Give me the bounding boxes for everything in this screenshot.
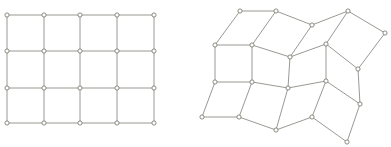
mesh-node: [115, 13, 119, 17]
mesh-node: [115, 49, 119, 53]
mesh-node: [274, 9, 278, 13]
mesh-node: [5, 49, 9, 53]
mesh-edge: [239, 117, 276, 130]
mesh-node: [200, 115, 204, 119]
mesh-edge: [358, 33, 385, 69]
mesh-node: [78, 86, 82, 90]
deformed-grid-edges: [202, 11, 385, 142]
mesh-node: [42, 121, 46, 125]
mesh-node: [5, 13, 9, 17]
mesh-edge: [276, 117, 312, 130]
mesh-figure: Regular grid mesh and its deformed count…: [0, 0, 391, 147]
mesh-edge: [239, 82, 252, 117]
mesh-edge: [312, 11, 348, 25]
mesh-edge: [326, 44, 358, 69]
mesh-edge: [276, 11, 312, 25]
mesh-node: [356, 67, 360, 71]
mesh-node: [358, 102, 362, 106]
mesh-edge: [276, 88, 288, 130]
mesh-node: [250, 80, 254, 84]
mesh-edge: [312, 117, 347, 142]
mesh-edge: [288, 81, 326, 88]
mesh-node: [310, 23, 314, 27]
mesh-edge: [202, 82, 215, 117]
mesh-node: [274, 128, 278, 132]
mesh-node: [345, 140, 349, 144]
mesh-node: [152, 121, 156, 125]
undeformed-grid-nodes: [5, 13, 156, 125]
mesh-node: [286, 86, 290, 90]
mesh-node: [213, 80, 217, 84]
mesh-node: [237, 115, 241, 119]
mesh-edge: [312, 81, 326, 117]
mesh-node: [115, 121, 119, 125]
deformed-grid-panel: [200, 9, 387, 144]
mesh-canvas: [0, 0, 391, 147]
mesh-node: [42, 86, 46, 90]
mesh-node: [115, 86, 119, 90]
mesh-edge: [252, 11, 276, 45]
mesh-node: [152, 86, 156, 90]
undeformed-grid-edges: [7, 15, 154, 123]
mesh-node: [78, 49, 82, 53]
mesh-node: [310, 115, 314, 119]
undeformed-grid-panel: [5, 13, 156, 125]
mesh-node: [5, 121, 9, 125]
mesh-edge: [288, 57, 290, 88]
mesh-node: [152, 49, 156, 53]
mesh-edge: [215, 11, 240, 45]
mesh-node: [324, 42, 328, 46]
mesh-node: [42, 49, 46, 53]
mesh-node: [383, 31, 387, 35]
mesh-node: [78, 13, 82, 17]
mesh-node: [250, 43, 254, 47]
mesh-node: [288, 55, 292, 59]
mesh-node: [238, 9, 242, 13]
mesh-node: [42, 13, 46, 17]
mesh-node: [78, 121, 82, 125]
mesh-edge: [358, 69, 360, 104]
mesh-edge: [347, 104, 360, 142]
mesh-node: [346, 9, 350, 13]
mesh-edge: [290, 44, 326, 57]
mesh-node: [152, 13, 156, 17]
mesh-edge: [326, 81, 360, 104]
mesh-edge: [348, 11, 385, 33]
mesh-node: [324, 79, 328, 83]
mesh-edge: [252, 82, 288, 88]
mesh-edge: [290, 25, 312, 57]
mesh-node: [5, 86, 9, 90]
mesh-node: [213, 43, 217, 47]
mesh-edge: [252, 45, 290, 57]
mesh-edge: [326, 11, 348, 44]
